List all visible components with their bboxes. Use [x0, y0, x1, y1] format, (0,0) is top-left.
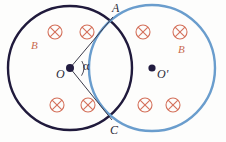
point-label-O-prime: O': [157, 68, 168, 80]
point-label-C: C: [110, 124, 118, 136]
field-into-page-icon: [80, 25, 94, 39]
point-label-O: O: [56, 68, 65, 80]
center-dots-group: [66, 64, 156, 72]
field-into-page-icon: [138, 98, 152, 112]
radius-line-OA: [70, 17, 113, 68]
field-into-page-icon: [81, 98, 95, 112]
field-into-page-icon: [48, 25, 62, 39]
field-into-page-icon: [50, 98, 64, 112]
point-label-A: A: [112, 2, 119, 14]
center-dot-O: [66, 64, 74, 72]
radius-lines-group: [70, 17, 113, 120]
radius-line-OC: [70, 68, 112, 120]
field-into-page-icon: [173, 25, 187, 39]
circles-group: [8, 5, 215, 131]
angle-label-alpha: α: [83, 60, 89, 72]
field-label-B-right: B: [178, 44, 185, 55]
field-into-page-icon: [136, 25, 150, 39]
physics-diagram-figure: A C O O' α B B: [0, 0, 226, 142]
field-label-B-left: B: [31, 40, 38, 51]
center-dot-O-prime: [148, 64, 155, 71]
diagram-canvas: [0, 0, 226, 142]
field-into-page-icon: [166, 98, 180, 112]
